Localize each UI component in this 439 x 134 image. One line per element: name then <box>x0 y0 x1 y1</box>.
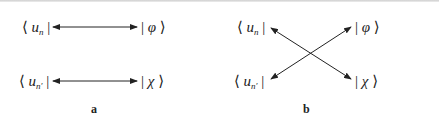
caption-b: b <box>303 102 310 117</box>
bra-unprime-a: ⟨ un′ | <box>19 73 49 94</box>
ket-phi-b: | φ ⟩ <box>355 19 380 35</box>
caption-a: a <box>91 102 97 117</box>
ket-phi-a: | φ ⟩ <box>141 19 166 35</box>
ket-chi-a: | χ ⟩ <box>141 73 164 89</box>
ket-chi-b: | χ ⟩ <box>355 73 378 89</box>
bra-unprime-b: ⟨ un′ | <box>234 73 264 94</box>
bra-un-a: ⟨ un | <box>22 19 50 40</box>
bra-un-b: ⟨ un | <box>237 19 265 40</box>
